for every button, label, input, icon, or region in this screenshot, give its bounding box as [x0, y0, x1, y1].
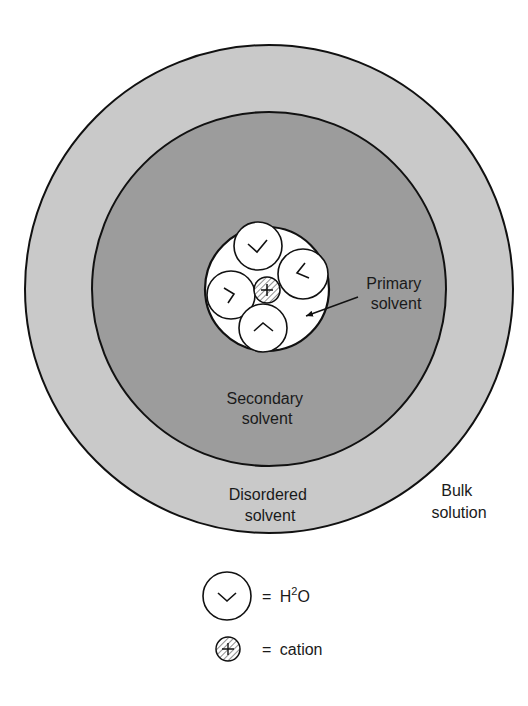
- cation: [254, 277, 280, 303]
- water-molecule-right: [278, 249, 328, 299]
- legend-water-label: = H2O: [262, 585, 310, 605]
- solvation-diagram: Primary solvent Secondary solvent Disord…: [0, 0, 528, 706]
- legend-cation-label: = cation: [262, 641, 323, 658]
- legend-water-symbol: [203, 572, 251, 620]
- bulk-solution-label: Bulk solution: [431, 482, 486, 521]
- legend-cation-symbol: [216, 637, 240, 661]
- water-molecule-bottom: [239, 304, 287, 352]
- legend: = H2O = cation: [203, 572, 323, 661]
- water-molecule-top: [234, 222, 282, 270]
